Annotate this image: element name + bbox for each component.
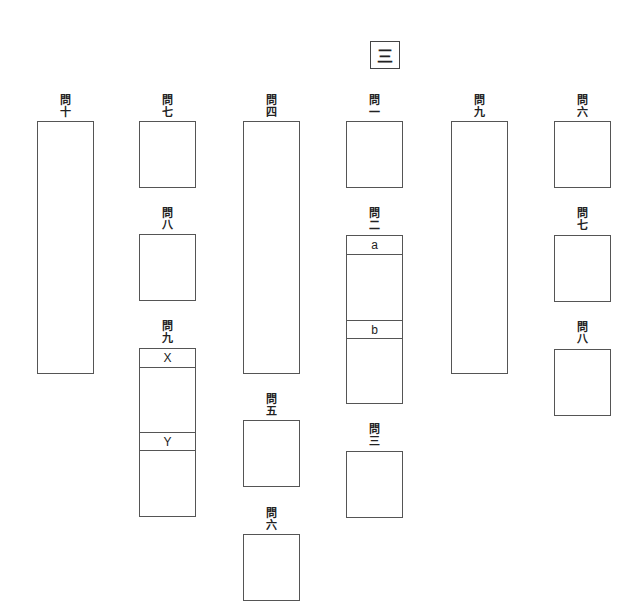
answer-box-q3[interactable] xyxy=(346,451,403,518)
question-number: 十 xyxy=(37,107,93,119)
question-label-1: 問 一 xyxy=(346,95,402,119)
answer-box-q8b[interactable] xyxy=(554,349,611,416)
question-number: 六 xyxy=(554,107,610,119)
question-number: 九 xyxy=(451,107,507,119)
answer-box-q7b[interactable] xyxy=(554,235,611,302)
question-label-8: 問 八 xyxy=(139,208,195,232)
question-label-10: 問 十 xyxy=(37,95,93,119)
question-label-7: 問 七 xyxy=(139,95,195,119)
question-number: 一 xyxy=(346,107,402,119)
answer-box-q6b[interactable] xyxy=(554,121,611,188)
question-label-4: 問 四 xyxy=(243,95,299,119)
answer-field-a[interactable] xyxy=(347,255,402,320)
answer-box-q2: a b xyxy=(346,235,403,404)
sub-label-a: a xyxy=(347,236,402,255)
sub-label-b: b xyxy=(347,320,402,339)
question-number: 五 xyxy=(243,406,299,418)
question-number: 七 xyxy=(139,107,195,119)
question-label-3: 問 三 xyxy=(346,424,402,448)
answer-field-y[interactable] xyxy=(140,451,195,516)
sub-label-y: Y xyxy=(140,432,195,451)
answer-box-q10[interactable] xyxy=(37,121,94,374)
answer-field-b[interactable] xyxy=(347,339,402,403)
answer-box-q8[interactable] xyxy=(139,234,196,301)
answer-box-q1[interactable] xyxy=(346,121,403,188)
answer-box-q9: X Y xyxy=(139,348,196,517)
answer-box-q4[interactable] xyxy=(243,121,300,374)
question-label-5: 問 五 xyxy=(243,394,299,418)
question-number: 八 xyxy=(139,220,195,232)
sub-label-x: X xyxy=(140,349,195,368)
question-label-9: 問 九 xyxy=(139,321,195,345)
question-label-9b: 問 九 xyxy=(451,95,507,119)
question-label-7b: 問 七 xyxy=(554,208,610,232)
question-number: 七 xyxy=(554,220,610,232)
answer-field-x[interactable] xyxy=(140,368,195,432)
question-label-6: 問 六 xyxy=(243,508,299,532)
answer-box-q6[interactable] xyxy=(243,534,300,601)
answer-box-q7[interactable] xyxy=(139,121,196,188)
question-number: 三 xyxy=(346,436,402,448)
question-number: 六 xyxy=(243,520,299,532)
question-number: 九 xyxy=(139,333,195,345)
question-label-2: 問 二 xyxy=(346,208,402,232)
section-number-box: 三 xyxy=(370,41,400,69)
question-number: 八 xyxy=(554,334,610,346)
answer-box-q9b[interactable] xyxy=(451,121,508,374)
question-label-8b: 問 八 xyxy=(554,322,610,346)
question-label-6b: 問 六 xyxy=(554,95,610,119)
question-number: 二 xyxy=(346,220,402,232)
answer-box-q5[interactable] xyxy=(243,420,300,487)
question-number: 四 xyxy=(243,107,299,119)
